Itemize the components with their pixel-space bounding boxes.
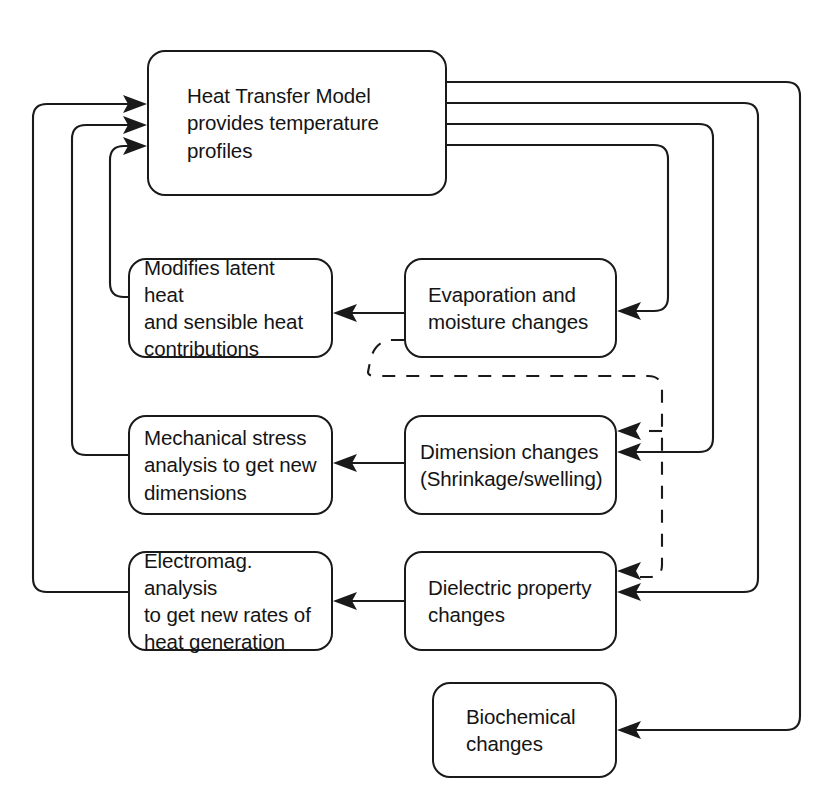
edge-modifies-to-htm (110, 146, 128, 297)
node-modifies-latent-heat[interactable]: Modifies latent heat and sensible heat c… (128, 258, 333, 358)
node-biochemical-changes-label: Biochemical changes (466, 703, 575, 757)
node-heat-transfer-model-label: Heat Transfer Model provides temperature… (187, 82, 379, 163)
node-electromagnetic-analysis[interactable]: Electromag. analysis to get new rates of… (128, 551, 333, 651)
arrowhead-dimension-dashed (617, 422, 641, 440)
arrowhead-dielectric-dashed (617, 562, 641, 580)
edge-mechanical-to-htm (72, 125, 128, 455)
node-dimension-changes[interactable]: Dimension changes (Shrinkage/swelling) (404, 415, 617, 515)
node-biochemical-changes[interactable]: Biochemical changes (432, 682, 617, 778)
node-mechanical-stress-label: Mechanical stress analysis to get new di… (144, 424, 316, 505)
node-evaporation-moisture-label: Evaporation and moisture changes (428, 281, 588, 335)
node-dielectric-property-label: Dielectric property changes (428, 574, 591, 628)
edge-electromagnetic-to-htm (33, 104, 128, 592)
node-dimension-changes-label: Dimension changes (Shrinkage/swelling) (420, 438, 603, 492)
node-dielectric-property[interactable]: Dielectric property changes (404, 551, 617, 651)
flowchart-canvas: Heat Transfer Model provides temperature… (0, 0, 837, 809)
node-electromagnetic-analysis-label: Electromag. analysis to get new rates of… (144, 547, 317, 655)
node-evaporation-moisture[interactable]: Evaporation and moisture changes (404, 258, 617, 358)
node-mechanical-stress[interactable]: Mechanical stress analysis to get new di… (128, 415, 333, 515)
node-heat-transfer-model[interactable]: Heat Transfer Model provides temperature… (147, 50, 447, 196)
node-modifies-latent-heat-label: Modifies latent heat and sensible heat c… (144, 254, 317, 362)
